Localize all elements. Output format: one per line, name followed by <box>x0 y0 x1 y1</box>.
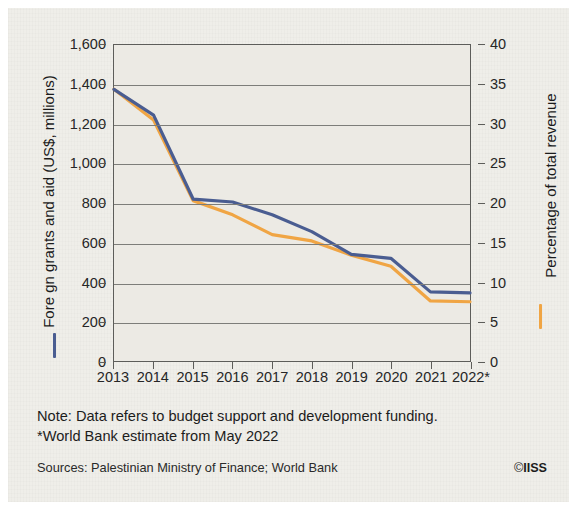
right-axis-tick-label: 35 <box>490 77 506 92</box>
left-axis-tickmark <box>99 322 106 323</box>
left-axis-tickmark <box>99 362 106 363</box>
left-axis-tickmark <box>99 163 106 164</box>
copyright-iiss: ©IISS <box>514 461 547 475</box>
x-axis-tick-label: 2017 <box>256 370 288 385</box>
x-axis-tick-label: 2018 <box>296 370 328 385</box>
x-axis-tickmark <box>431 362 432 369</box>
x-axis-tickmark <box>193 362 194 369</box>
left-axis-tick-labels: 02004006008001,0001,2001,4001,600 <box>60 44 106 362</box>
right-axis-tickmark <box>478 243 485 244</box>
left-axis-tickmark <box>99 44 106 45</box>
plot-box <box>113 44 471 362</box>
x-axis-tick-label: 2015 <box>176 370 208 385</box>
right-axis-tickmark <box>478 84 485 85</box>
x-axis-tickmark <box>352 362 353 369</box>
right-axis-tick-label: 5 <box>490 315 498 330</box>
x-axis-tickmark <box>272 362 273 369</box>
right-axis-tick-label: 25 <box>490 156 506 171</box>
x-axis-tick-label: 2020 <box>375 370 407 385</box>
right-axis-tick-label: 30 <box>490 117 506 132</box>
left-axis-tickmark <box>99 203 106 204</box>
gridline <box>114 323 470 324</box>
x-axis-tickmark <box>232 362 233 369</box>
note-line-2: *World Bank estimate from May 2022 <box>37 426 547 446</box>
right-axis-tick-labels: 0510152025303540 <box>478 44 518 362</box>
legend-dash-right-series <box>539 304 542 329</box>
gridline <box>114 204 470 205</box>
right-axis-tickmark <box>478 283 485 284</box>
x-axis-tickmark <box>113 362 114 369</box>
right-axis-tickmark <box>478 362 485 363</box>
left-axis-title: Fore gn grants and aid (US$, millions) <box>41 52 56 352</box>
right-axis-tickmark <box>478 44 485 45</box>
series-line-left <box>114 89 470 292</box>
copyright-org-name: IISS <box>523 461 547 475</box>
x-axis-tick-label: 2016 <box>216 370 248 385</box>
right-axis-tick-label: 0 <box>490 355 498 370</box>
right-axis-tickmark <box>478 163 485 164</box>
left-axis-tickmark <box>99 283 106 284</box>
legend-dash-left-series <box>53 333 56 358</box>
right-axis-tickmark <box>478 203 485 204</box>
right-axis-tick-label: 15 <box>490 236 506 251</box>
right-axis-tick-label: 40 <box>490 37 506 52</box>
right-axis-tickmark <box>478 124 485 125</box>
x-axis-tick-label: 2013 <box>97 370 129 385</box>
series-line-right <box>114 89 470 302</box>
right-axis-title: Percentage of total revenue <box>543 36 558 336</box>
gridline <box>114 164 470 165</box>
left-axis-tickmark <box>99 84 106 85</box>
right-axis-tickmark <box>478 322 485 323</box>
gridline <box>114 85 470 86</box>
gridline <box>114 125 470 126</box>
x-axis-tickmark <box>471 362 472 369</box>
right-axis-tick-label: 20 <box>490 196 506 211</box>
plot-area-wrapper: Fore gn grants and aid (US$, millions) P… <box>8 8 569 394</box>
sources-row: Sources: Palestinian Ministry of Finance… <box>37 460 547 475</box>
x-axis-tickmark <box>312 362 313 369</box>
left-axis-tickmark <box>99 124 106 125</box>
series-lines <box>114 45 470 361</box>
x-axis-tickmark <box>153 362 154 369</box>
x-axis-tick-label: 2019 <box>336 370 368 385</box>
note-line-1: Note: Data refers to budget support and … <box>37 406 547 426</box>
copyright-symbol: © <box>514 461 523 475</box>
gridline <box>114 284 470 285</box>
x-axis-tick-label: 2022* <box>452 370 490 385</box>
right-axis-tick-label: 10 <box>490 276 506 291</box>
chart-figure: Fore gn grants and aid (US$, millions) P… <box>8 8 569 502</box>
left-axis-tickmark <box>99 243 106 244</box>
chart-footer: Note: Data refers to budget support and … <box>37 406 547 475</box>
x-axis-tick-label: 2014 <box>137 370 169 385</box>
x-axis-tickmark <box>391 362 392 369</box>
x-axis-tick-labels: 2013201420152016201720182019202020212022… <box>113 370 471 392</box>
gridline <box>114 244 470 245</box>
x-axis-tick-label: 2021 <box>415 370 447 385</box>
sources-text: Sources: Palestinian Ministry of Finance… <box>37 460 338 475</box>
